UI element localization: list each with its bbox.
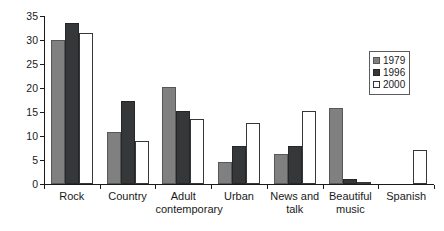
bar: [162, 87, 176, 184]
bar: [246, 123, 260, 184]
bar: [302, 111, 316, 184]
legend-item: 1979: [373, 55, 405, 66]
legend-swatch-icon: [373, 81, 380, 88]
legend-label: 2000: [383, 80, 405, 90]
legend-label: 1996: [383, 68, 405, 78]
x-axis-category-label: Spanish: [378, 190, 434, 203]
y-axis-labels: 05101520253035: [0, 0, 38, 231]
bar-chart: 05101520253035 RockCountryAdult contempo…: [0, 0, 444, 231]
bar: [288, 146, 302, 184]
x-axis-tick: [267, 185, 268, 189]
bar-group: [378, 16, 434, 184]
bar-group: [323, 16, 379, 184]
legend-swatch-icon: [373, 57, 380, 64]
bar-group: [267, 16, 323, 184]
y-axis-tick-label: 30: [2, 35, 38, 46]
bar-group: [155, 16, 211, 184]
bar: [121, 101, 135, 184]
bar: [135, 141, 149, 184]
bar: [79, 33, 93, 184]
bar: [343, 179, 357, 184]
y-axis-tick-label: 10: [2, 131, 38, 142]
x-axis-tick: [100, 185, 101, 189]
bar-group: [44, 16, 100, 184]
x-axis-tick: [378, 185, 379, 189]
legend-item: 1996: [373, 67, 405, 78]
bar: [65, 23, 79, 184]
x-axis-category-label: Urban: [211, 190, 267, 203]
y-axis-tick-label: 25: [2, 59, 38, 70]
x-axis-tick: [211, 185, 212, 189]
y-axis-tick-label: 0: [2, 179, 38, 190]
bar: [218, 162, 232, 184]
plot-area: [44, 16, 434, 184]
x-axis-tick: [434, 185, 435, 189]
bar: [51, 40, 65, 184]
x-axis-category-label: Country: [100, 190, 156, 203]
bar: [107, 132, 121, 184]
x-axis-tick: [323, 185, 324, 189]
x-axis-tick: [155, 185, 156, 189]
x-axis-category-label: Beautiful music: [323, 190, 379, 216]
legend-label: 1979: [383, 56, 405, 66]
x-axis-category-label: Rock: [44, 190, 100, 203]
bar: [232, 146, 246, 184]
bar: [329, 108, 343, 184]
y-axis-tick-label: 35: [2, 11, 38, 22]
x-axis-category-label: Adult contemporary: [155, 190, 211, 216]
legend: 197919962000: [369, 51, 410, 95]
bar: [274, 154, 288, 184]
bar: [413, 150, 427, 184]
bar: [357, 182, 371, 184]
bar-group: [211, 16, 267, 184]
x-axis-tick: [44, 185, 45, 189]
bar: [190, 119, 204, 184]
y-axis-tick-label: 20: [2, 83, 38, 94]
y-axis-tick-label: 5: [2, 155, 38, 166]
legend-swatch-icon: [373, 69, 380, 76]
x-axis-line: [44, 184, 434, 185]
x-axis-category-label: News and talk: [267, 190, 323, 216]
y-axis-tick-label: 15: [2, 107, 38, 118]
legend-item: 2000: [373, 79, 405, 90]
bar-group: [100, 16, 156, 184]
bar: [176, 111, 190, 184]
